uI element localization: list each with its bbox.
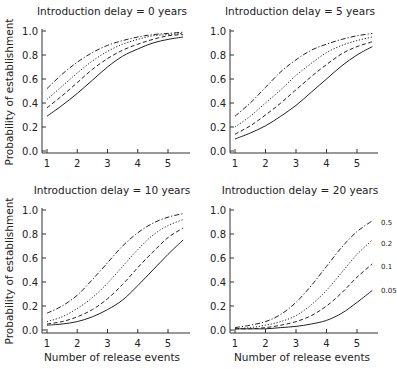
y-tick-label: 0.6 bbox=[210, 253, 226, 264]
line-label: 0.5 bbox=[381, 219, 392, 227]
panel-title: Introduction delay = 20 years bbox=[222, 184, 379, 196]
y-tick-label: 0.4 bbox=[22, 98, 38, 109]
y-tick-label: 0.0 bbox=[22, 146, 38, 157]
series-line-0.5 bbox=[235, 221, 372, 328]
x-tick-label: 2 bbox=[262, 158, 268, 169]
figure: Introduction delay = 0 years0.00.20.40.6… bbox=[0, 0, 397, 369]
series-line-0.1 bbox=[235, 264, 372, 329]
x-tick-label: 5 bbox=[165, 158, 171, 169]
panel-2: Introduction delay = 10 years0.00.20.40.… bbox=[22, 184, 190, 349]
y-tick-label: 0.4 bbox=[210, 98, 226, 109]
y-axis-label-bottom: Probability of establishment bbox=[3, 198, 15, 345]
x-tick-label: 3 bbox=[104, 338, 110, 349]
y-tick-label: 1.0 bbox=[22, 205, 38, 216]
x-tick-label: 1 bbox=[232, 338, 238, 349]
y-tick-label: 1.0 bbox=[22, 26, 38, 37]
panel-0: Introduction delay = 0 years0.00.20.40.6… bbox=[22, 5, 190, 169]
series-line-0.2 bbox=[47, 220, 183, 322]
x-tick-label: 2 bbox=[74, 158, 80, 169]
series-line-0.1 bbox=[47, 35, 183, 108]
x-tick-label: 3 bbox=[104, 158, 110, 169]
series-line-0.2 bbox=[235, 240, 372, 329]
y-tick-label: 0.0 bbox=[210, 146, 226, 157]
x-tick-label: 5 bbox=[354, 158, 360, 169]
y-tick-label: 0.2 bbox=[210, 301, 226, 312]
y-tick-label: 0.6 bbox=[22, 253, 38, 264]
series-line-0.5 bbox=[235, 33, 372, 116]
y-tick-label: 0.8 bbox=[22, 50, 38, 61]
panel-3: Introduction delay = 20 years0.00.20.40.… bbox=[210, 184, 397, 349]
y-tick-label: 0.4 bbox=[210, 277, 226, 288]
y-tick-label: 0.2 bbox=[210, 122, 226, 133]
series-line-0.1 bbox=[47, 228, 183, 324]
x-tick-label: 2 bbox=[262, 338, 268, 349]
series-line-0.1 bbox=[235, 42, 372, 134]
y-tick-label: 0.0 bbox=[22, 325, 38, 336]
panel-title: Introduction delay = 10 years bbox=[34, 184, 191, 196]
series-line-0.05 bbox=[47, 240, 183, 325]
y-tick-label: 0.8 bbox=[210, 229, 226, 240]
line-label: 0.2 bbox=[381, 240, 392, 248]
panel-title: Introduction delay = 5 years bbox=[225, 5, 375, 17]
x-tick-label: 1 bbox=[44, 158, 50, 169]
y-tick-label: 1.0 bbox=[210, 26, 226, 37]
series-line-0.2 bbox=[235, 37, 372, 127]
panel-title: Introduction delay = 0 years bbox=[37, 5, 187, 17]
x-tick-label: 3 bbox=[293, 338, 299, 349]
y-tick-label: 0.4 bbox=[22, 277, 38, 288]
y-tick-label: 0.2 bbox=[22, 301, 38, 312]
series-line-0.05 bbox=[235, 290, 372, 328]
x-tick-label: 1 bbox=[232, 158, 238, 169]
x-tick-label: 3 bbox=[293, 158, 299, 169]
x-tick-label: 5 bbox=[165, 338, 171, 349]
series-line-0.05 bbox=[235, 47, 372, 139]
x-tick-label: 4 bbox=[323, 158, 329, 169]
x-tick-label: 1 bbox=[44, 338, 50, 349]
y-tick-label: 0.6 bbox=[22, 74, 38, 85]
x-tick-label: 4 bbox=[135, 338, 141, 349]
y-tick-label: 0.8 bbox=[210, 50, 226, 61]
y-tick-label: 1.0 bbox=[210, 205, 226, 216]
x-tick-label: 5 bbox=[354, 338, 360, 349]
x-tick-label: 4 bbox=[323, 338, 329, 349]
y-tick-label: 0.0 bbox=[210, 325, 226, 336]
x-axis-label-right: Number of release events bbox=[234, 351, 370, 363]
line-label: 0.05 bbox=[381, 287, 397, 295]
y-tick-label: 0.2 bbox=[22, 122, 38, 133]
y-axis-label-top: Probability of establishment bbox=[3, 19, 15, 166]
line-label: 0.1 bbox=[381, 263, 392, 271]
x-tick-label: 4 bbox=[135, 158, 141, 169]
x-axis-label-left: Number of release events bbox=[44, 351, 180, 363]
y-tick-label: 0.8 bbox=[22, 229, 38, 240]
series-line-0.05 bbox=[47, 37, 183, 116]
x-tick-label: 2 bbox=[74, 338, 80, 349]
panel-1: Introduction delay = 5 years0.00.20.40.6… bbox=[210, 5, 378, 169]
series-line-0.2 bbox=[47, 33, 183, 99]
y-tick-label: 0.6 bbox=[210, 74, 226, 85]
